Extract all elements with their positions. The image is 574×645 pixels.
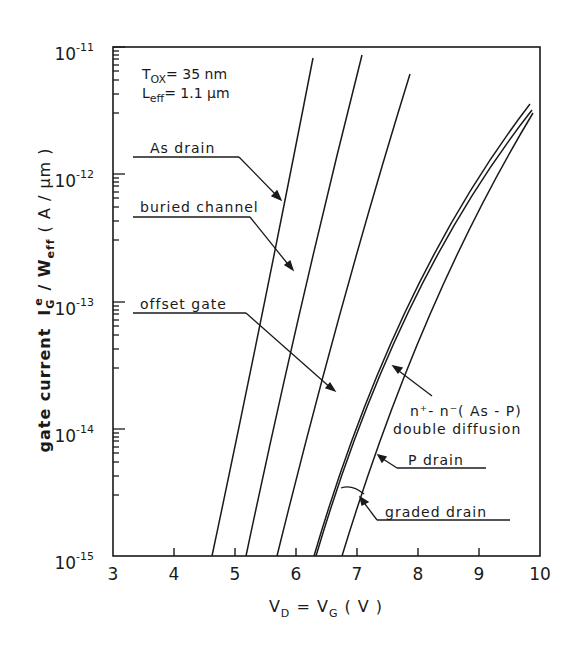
y-tick-labels: 10-11 10-12 10-13 10-14 10-15 — [54, 41, 94, 573]
label-double-diffusion-1: n⁺- n⁻( As - P) — [410, 403, 522, 419]
x-tick-7: 7 — [352, 564, 363, 584]
x-tick-3: 3 — [108, 564, 119, 584]
x-tick-5: 5 — [230, 564, 241, 584]
label-as-drain: As drain — [150, 140, 215, 156]
x-tick-4: 4 — [169, 564, 180, 584]
y-tick-1e-15: 10-15 — [54, 550, 94, 573]
x-tick-6: 6 — [291, 564, 302, 584]
curve-double-diffusion — [316, 110, 532, 556]
tox-annotation: TOX= 35 nm — [141, 66, 227, 86]
x-tick-10: 10 — [529, 564, 551, 584]
y-tick-1e-11: 10-11 — [54, 41, 94, 64]
y-ticks — [113, 47, 125, 495]
label-p-drain: P drain — [408, 452, 464, 468]
y-axis-title: gate currentIGe / Weff ( A / µm ) — [32, 147, 57, 452]
gate-current-chart: 3 4 5 6 7 8 9 10 10-11 10-12 10-13 10-14… — [0, 0, 574, 645]
x-tick-9: 9 — [474, 564, 485, 584]
leff-annotation: Leff= 1.1 µm — [142, 85, 230, 105]
curve-p-drain — [342, 113, 533, 556]
label-double-diffusion-2: double diffusion — [393, 421, 521, 437]
label-graded-drain: graded drain — [385, 504, 487, 520]
y-tick-1e-13: 10-13 — [54, 296, 94, 319]
y-tick-1e-14: 10-14 — [54, 423, 94, 446]
y-tick-1e-12: 10-12 — [54, 168, 94, 191]
curves — [212, 55, 533, 556]
x-tick-8: 8 — [413, 564, 424, 584]
x-tick-labels: 3 4 5 6 7 8 9 10 — [108, 564, 551, 584]
curve-offset-gate — [277, 74, 410, 556]
x-axis-title: VD = VG ( V ) — [269, 597, 383, 620]
label-buried-channel: buried channel — [140, 199, 259, 215]
label-offset-gate: offset gate — [140, 296, 227, 312]
x-ticks — [174, 548, 479, 556]
curve-graded-drain — [314, 104, 530, 556]
